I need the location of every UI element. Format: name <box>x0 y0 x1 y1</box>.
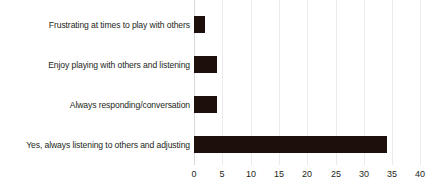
bars-layer <box>194 0 421 165</box>
xtick-35: 35 <box>387 169 397 180</box>
category-label-yes-always-listening: Yes, always listening to others and adju… <box>0 140 190 150</box>
bar-chart: Frustrating at times to play with others… <box>0 0 441 195</box>
xtick-30: 30 <box>359 169 369 180</box>
xtick-15: 15 <box>274 169 284 180</box>
xtick-25: 25 <box>331 169 341 180</box>
bar-always-responding <box>194 96 217 113</box>
xtick-0: 0 <box>191 169 196 180</box>
category-label-always-responding: Always responding/conversation <box>0 100 190 110</box>
category-label-enjoy-playing: Enjoy playing with others and listening <box>0 60 190 70</box>
x-axis-tick-labels: 0 5 10 15 20 25 30 35 40 <box>194 166 421 186</box>
bar-frustrating <box>194 16 205 33</box>
bar-enjoy-playing <box>194 56 217 73</box>
xtick-40: 40 <box>415 169 425 180</box>
bar-yes-always-listening <box>194 136 387 153</box>
xtick-20: 20 <box>302 169 312 180</box>
category-label-frustrating: Frustrating at times to play with others <box>0 20 190 30</box>
category-axis-labels: Frustrating at times to play with others… <box>0 0 190 165</box>
xtick-5: 5 <box>219 169 224 180</box>
xtick-10: 10 <box>246 169 256 180</box>
